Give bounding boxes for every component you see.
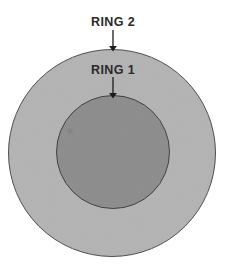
ring-diagram: RING 2 RING 1 [0,0,227,266]
annotation-ring-2: RING 2 [91,15,135,48]
scan-speck-artifact [67,128,72,133]
ring-2-label: RING 2 [91,15,135,29]
ring-diagram-canvas: RING 2 RING 1 [0,0,227,266]
ring-1-label: RING 1 [91,63,135,77]
inner-ring-shape [57,96,170,209]
